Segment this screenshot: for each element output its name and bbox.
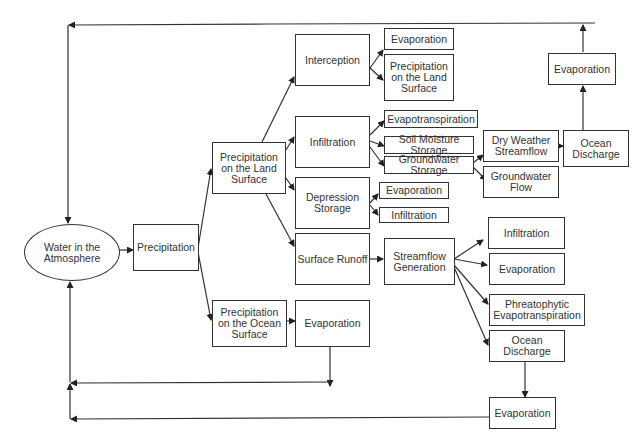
node-ocean-surface-evaporation: Evaporation xyxy=(295,300,370,347)
node-precipitation-land-surface: Precipitation on the Land Surface xyxy=(212,142,286,194)
node-interception-evaporation: Evaporation xyxy=(384,28,454,50)
node-phreatophytic-evapotranspiration: Phreatophytic Evapotranspiration xyxy=(489,294,585,326)
node-groundwater-flow: Groundwater Flow xyxy=(483,166,559,198)
node-precipitation: Precipitation xyxy=(133,224,199,271)
node-evaporation-bottom: Evaporation xyxy=(489,397,556,429)
node-water-in-atmosphere: Water in the Atmosphere xyxy=(24,224,120,281)
node-soil-moisture-storage: Soil Moisture Storage xyxy=(384,136,474,154)
node-infiltration: Infiltration xyxy=(295,116,370,168)
node-evaporation-top: Evaporation xyxy=(548,53,616,85)
node-surface-runoff: Surface Runoff xyxy=(295,233,370,285)
node-precipitation-ocean-surface: Precipitation on the Ocean Surface xyxy=(212,300,287,347)
node-depression-evaporation: Evaporation xyxy=(379,182,449,199)
node-streamflow-evaporation: Evaporation xyxy=(489,253,565,285)
node-evapotranspiration: Evapotranspiration xyxy=(384,110,478,128)
node-streamflow-infiltration: Infiltration xyxy=(488,217,565,249)
node-interception: Interception xyxy=(295,34,370,86)
node-ocean-discharge-top: Ocean Discharge xyxy=(563,130,629,167)
node-dry-weather-streamflow: Dry Weather Streamflow xyxy=(483,130,559,162)
node-depression-storage: Depression Storage xyxy=(295,177,370,229)
node-depression-infiltration: Infiltration xyxy=(379,207,449,223)
node-ocean-discharge-bottom: Ocean Discharge xyxy=(489,330,565,362)
node-groundwater-storage: Groundwater Storage xyxy=(384,156,474,174)
node-streamflow-generation: Streamflow Generation xyxy=(384,238,455,285)
node-interception-precipitation-land: Precipitation on the Land Surface xyxy=(384,54,454,101)
